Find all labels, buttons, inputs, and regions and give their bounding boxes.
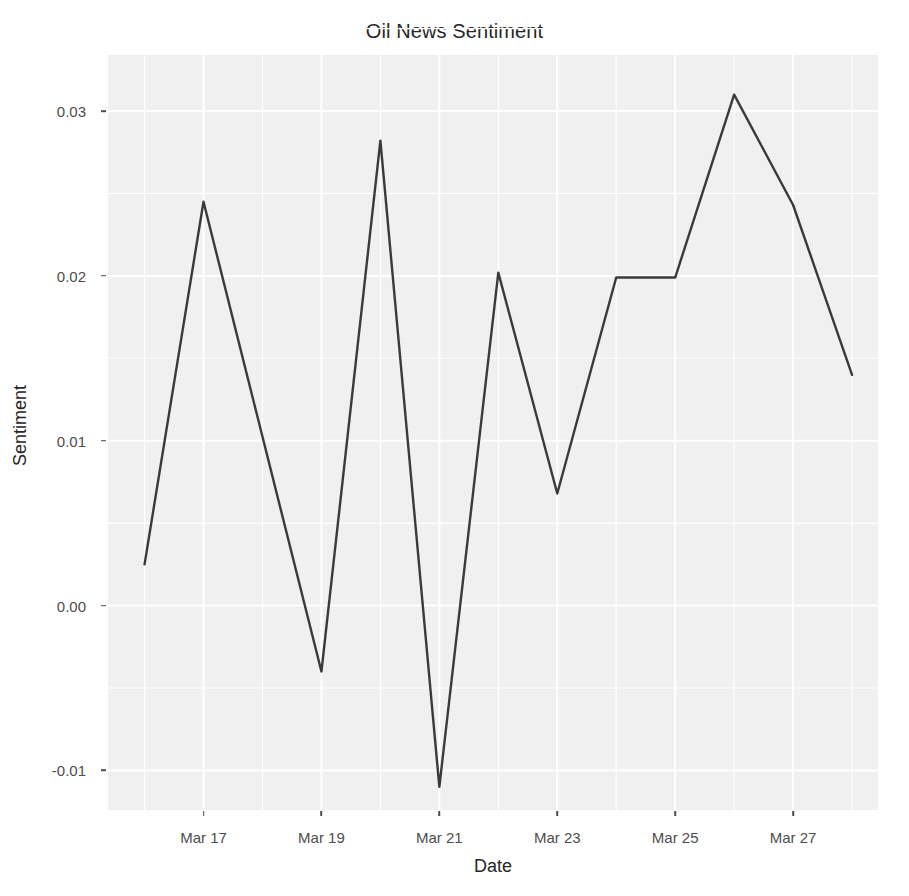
y-tick-mark [101, 440, 106, 442]
y-tick-label: 0.03 [0, 103, 86, 120]
x-tick-label: Mar 19 [298, 829, 345, 846]
y-tick-mark [101, 110, 106, 112]
x-tick-mark [439, 811, 441, 816]
chart-canvas: Oil News Sentiment 0.030.020.010.00-0.01… [0, 0, 909, 896]
x-axis-ticks: Mar 17Mar 19Mar 21Mar 23Mar 25Mar 27 [108, 811, 878, 851]
x-tick-label: Mar 27 [770, 829, 817, 846]
x-axis-title: Date [108, 856, 878, 877]
y-tick-label: -0.01 [0, 762, 86, 779]
x-tick-label: Mar 23 [534, 829, 581, 846]
y-axis-title: Sentiment [10, 346, 31, 506]
y-tick-mark [101, 770, 106, 772]
x-tick-mark [792, 811, 794, 816]
y-tick-mark [101, 605, 106, 607]
plot-area [108, 55, 878, 810]
x-tick-label: Mar 17 [180, 829, 227, 846]
x-tick-mark [321, 811, 323, 816]
y-tick-label: 0.02 [0, 267, 86, 284]
major-gridlines [108, 55, 878, 810]
x-tick-label: Mar 21 [416, 829, 463, 846]
chart-title: Oil News Sentiment [0, 20, 909, 43]
y-tick-label: 0.00 [0, 597, 86, 614]
x-tick-label: Mar 25 [652, 829, 699, 846]
x-tick-mark [203, 811, 205, 816]
x-tick-mark [674, 811, 676, 816]
x-tick-mark [556, 811, 558, 816]
y-tick-mark [101, 275, 106, 277]
